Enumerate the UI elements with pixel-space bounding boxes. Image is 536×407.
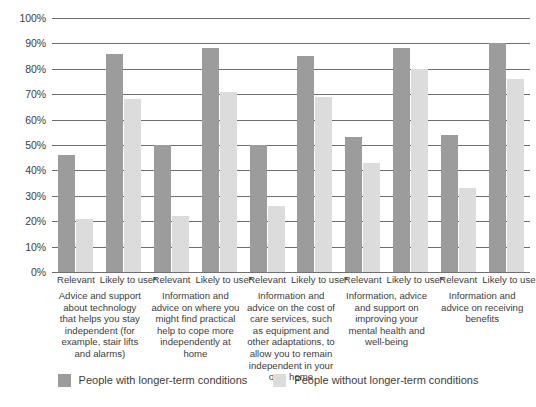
bar	[172, 216, 189, 272]
bar	[124, 99, 141, 272]
x-axis-measure-label: Likely to use*	[195, 274, 243, 286]
y-axis-tick-label: 30%	[25, 190, 46, 201]
legend-label: People with longer-term conditions	[79, 374, 248, 387]
y-axis-tick-label: 100%	[20, 13, 46, 24]
bar	[363, 163, 380, 272]
x-axis-group-label: Advice and support about technology that…	[54, 290, 146, 360]
bar	[268, 206, 285, 272]
bar	[507, 79, 524, 272]
x-axis-measure-label: Relevant	[434, 274, 482, 286]
grouped-bar-chart: 0%10%20%30%40%50%60%70%80%90%100% Releva…	[0, 0, 536, 407]
y-axis-tick-label: 60%	[25, 114, 46, 125]
legend-item[interactable]: People without longer-term conditions	[273, 374, 478, 387]
y-axis-tick-label: 10%	[25, 241, 46, 252]
bar	[411, 69, 428, 272]
chart-legend: People with longer-term conditionsPeople…	[0, 368, 536, 392]
x-axis-measure-label: Relevant	[52, 274, 100, 286]
x-axis-measure-label: Likely to use*	[387, 274, 435, 286]
bar	[345, 137, 362, 272]
x-axis-measure-label: Likely to use*	[482, 274, 530, 286]
legend-swatch-icon	[273, 374, 286, 387]
y-axis-tick-label: 50%	[25, 140, 46, 151]
bar	[441, 135, 458, 272]
x-axis-measure-label: Relevant	[243, 274, 291, 286]
plot-area	[52, 18, 530, 272]
bar	[489, 43, 506, 272]
bar	[250, 145, 267, 272]
legend-swatch-icon	[58, 374, 71, 387]
x-axis-group-labels: Advice and support about technology that…	[52, 290, 530, 366]
y-axis-tick-label: 80%	[25, 63, 46, 74]
x-axis-group-label: Information, advice and support on impro…	[341, 290, 433, 348]
bar	[76, 219, 93, 272]
axis-baseline	[52, 272, 530, 273]
x-axis-group-label: Information and advice on receiving bene…	[436, 290, 528, 325]
legend-label: People without longer-term conditions	[294, 374, 478, 387]
y-axis-tick-label: 90%	[25, 38, 46, 49]
y-axis-tick-label: 20%	[25, 216, 46, 227]
x-axis-measure-label: Relevant	[339, 274, 387, 286]
bar	[202, 48, 219, 272]
bar	[106, 54, 123, 272]
bar	[220, 92, 237, 272]
bar	[393, 48, 410, 272]
bar	[154, 145, 171, 272]
bar	[297, 56, 314, 272]
y-axis: 0%10%20%30%40%50%60%70%80%90%100%	[0, 18, 46, 272]
x-axis-group-label: Information and advice on where you migh…	[150, 290, 242, 360]
x-axis-measure-label: Relevant	[148, 274, 196, 286]
legend-item[interactable]: People with longer-term conditions	[58, 374, 248, 387]
bar	[459, 188, 476, 272]
x-axis-measure-label: Likely to use*	[291, 274, 339, 286]
x-axis-measure-label: Likely to use*	[100, 274, 148, 286]
bar	[58, 155, 75, 272]
y-axis-tick-label: 0%	[31, 267, 46, 278]
bar	[315, 97, 332, 272]
bars-layer	[52, 18, 530, 272]
x-axis-measure-labels: RelevantLikely to use*RelevantLikely to …	[52, 274, 530, 288]
y-axis-tick-label: 70%	[25, 89, 46, 100]
y-axis-tick-label: 40%	[25, 165, 46, 176]
